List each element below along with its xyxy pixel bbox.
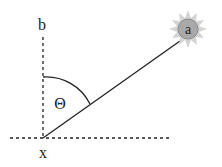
vertical-axis-label: b	[38, 16, 46, 33]
angle-label: Θ	[54, 95, 66, 112]
origin-label: x	[39, 144, 47, 161]
ray-line	[43, 41, 180, 138]
angle-diagram: a b x Θ	[0, 0, 222, 167]
angle-arc	[43, 77, 90, 104]
sun-label: a	[185, 22, 192, 37]
